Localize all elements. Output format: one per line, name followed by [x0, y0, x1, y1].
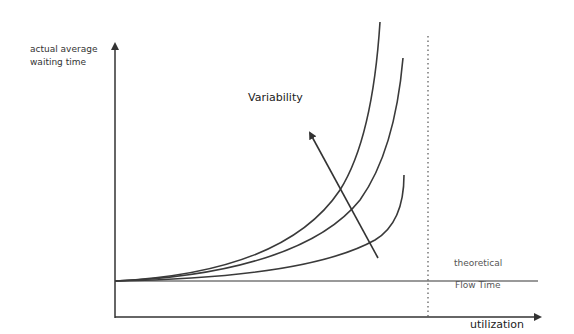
y-axis-label-line2: waiting time [30, 56, 115, 69]
flow-time-label: Flow Time [455, 280, 500, 290]
y-axis-label-line1: actual average [30, 43, 115, 56]
variability-arrow [310, 133, 378, 258]
x-axis-label: utilization [470, 318, 524, 331]
variability-label: Variability [248, 91, 303, 104]
curve-high-variability [115, 22, 380, 281]
y-axis-label: actual average waiting time [30, 43, 115, 69]
curve-low-variability [115, 175, 404, 281]
theoretical-label: theoretical [454, 258, 502, 268]
